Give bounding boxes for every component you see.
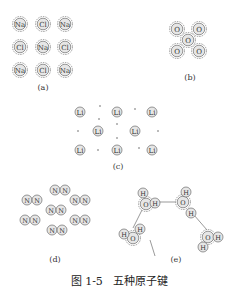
figure-caption: 图 1-5 五种原子键 bbox=[0, 272, 239, 288]
svg-text:O: O bbox=[185, 37, 191, 45]
svg-text:O: O bbox=[180, 199, 185, 207]
svg-text:Li: Li bbox=[77, 147, 85, 155]
svg-text:H: H bbox=[188, 210, 194, 218]
svg-text:N: N bbox=[22, 217, 28, 225]
svg-text:H: H bbox=[121, 231, 127, 239]
svg-text:Na: Na bbox=[60, 21, 70, 29]
svg-text:O: O bbox=[205, 234, 210, 242]
caption-number: 图 1-5 bbox=[71, 275, 103, 288]
svg-text:O: O bbox=[130, 235, 135, 243]
svg-text:H: H bbox=[137, 226, 143, 234]
svg-text:H: H bbox=[183, 189, 189, 197]
figure-canvas: Na Cl Na Cl Na Cl Na Cl Na (a) O O O O O… bbox=[0, 0, 239, 294]
panel-d-molecular: N N N N N N N N N N N N N N (d) bbox=[20, 185, 90, 264]
panel-d-label: (d) bbox=[49, 255, 60, 264]
panel-e-hydrogen: O H H O H H O H H O H H (e) bbox=[119, 187, 223, 264]
panel-a-ionic: Na Cl Na Cl Na Cl Na Cl Na (a) bbox=[13, 17, 73, 93]
svg-text:O: O bbox=[174, 26, 180, 34]
svg-text:Cl: Cl bbox=[61, 44, 69, 52]
svg-text:Li: Li bbox=[114, 147, 122, 155]
svg-text:O: O bbox=[196, 48, 202, 56]
svg-text:Na: Na bbox=[60, 67, 70, 75]
svg-text:H: H bbox=[152, 200, 158, 208]
svg-text:Li: Li bbox=[95, 128, 103, 136]
svg-text:N: N bbox=[24, 197, 30, 205]
svg-text:H: H bbox=[215, 234, 221, 242]
svg-text:N: N bbox=[72, 217, 78, 225]
panel-e-label: (e) bbox=[171, 255, 182, 264]
svg-text:N: N bbox=[32, 217, 38, 225]
svg-text:O: O bbox=[174, 48, 180, 56]
svg-text:N: N bbox=[59, 227, 65, 235]
caption-title: 五种原子键 bbox=[113, 275, 168, 288]
svg-text:N: N bbox=[62, 187, 68, 195]
panel-b-label: (b) bbox=[184, 73, 195, 82]
svg-text:Li: Li bbox=[77, 109, 85, 117]
svg-text:N: N bbox=[58, 207, 64, 215]
panel-c-metallic: Li Li Li Li Li Li Li Li (c) bbox=[75, 105, 159, 171]
panel-c-label: (c) bbox=[113, 162, 124, 171]
svg-text:N: N bbox=[72, 197, 78, 205]
svg-text:Cl: Cl bbox=[39, 67, 47, 75]
svg-text:Li: Li bbox=[149, 109, 157, 117]
svg-text:Li: Li bbox=[149, 147, 157, 155]
svg-text:O: O bbox=[143, 201, 148, 209]
svg-text:N: N bbox=[49, 227, 55, 235]
svg-text:Li: Li bbox=[132, 128, 140, 136]
svg-text:N: N bbox=[34, 197, 40, 205]
svg-text:O: O bbox=[196, 26, 202, 34]
svg-text:H: H bbox=[200, 244, 206, 252]
svg-text:Na: Na bbox=[15, 67, 25, 75]
svg-text:Li: Li bbox=[114, 109, 122, 117]
svg-text:Na: Na bbox=[15, 21, 25, 29]
svg-text:N: N bbox=[82, 197, 88, 205]
panel-a-label: (a) bbox=[37, 83, 48, 92]
svg-text:N: N bbox=[82, 217, 88, 225]
svg-text:Cl: Cl bbox=[16, 44, 24, 52]
svg-text:Na: Na bbox=[38, 44, 48, 52]
panel-b-covalent: O O O O O (b) bbox=[170, 22, 207, 83]
svg-text:H: H bbox=[140, 190, 146, 198]
svg-text:Cl: Cl bbox=[39, 21, 47, 29]
svg-text:N: N bbox=[52, 187, 58, 195]
svg-text:N: N bbox=[48, 207, 54, 215]
